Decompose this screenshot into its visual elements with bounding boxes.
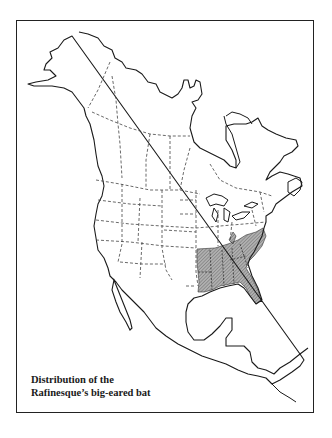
map-caption: Distribution of the Rafinesque’s big-ear… <box>31 373 151 399</box>
baja-california <box>112 280 132 330</box>
caption-line-2: Rafinesque’s big-eared bat <box>31 386 151 399</box>
caption-line-1: Distribution of the <box>31 373 151 386</box>
canada-province-borders <box>88 62 272 212</box>
arctic-islands <box>226 112 252 124</box>
central-america-coast <box>272 384 296 402</box>
coastline <box>28 32 308 384</box>
great-lakes <box>206 194 258 222</box>
